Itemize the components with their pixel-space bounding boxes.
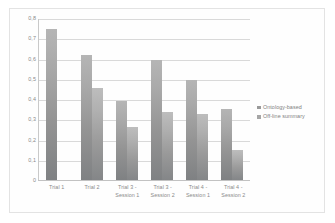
bar[interactable] [186,80,197,180]
bar-group [180,19,215,180]
bar[interactable] [151,60,162,180]
bar-group [39,19,74,180]
bar[interactable] [162,112,173,180]
plot-area [38,19,250,181]
y-axis-tick: 0,1 [14,158,36,163]
x-axis-tick: Trial 2 [74,184,109,200]
legend-swatch-icon [257,106,261,110]
x-axis-tick: Trial 4 -Session 1 [180,184,215,200]
chart-container: 0,8 0,7 0,6 0,5 0,4 0,3 0,2 0,1 0 Trial … [9,8,325,213]
bar[interactable] [46,29,57,180]
bar-group [145,19,180,180]
legend-item: Off-line summary [257,114,321,119]
y-axis-tick: 0,6 [14,57,36,62]
legend-item-label: Ontology-based [263,105,302,110]
bar-groups [39,19,250,180]
bar-group [74,19,109,180]
x-axis-line [38,180,250,181]
bar[interactable] [81,55,92,180]
bar[interactable] [221,109,232,180]
bar-group [109,19,144,180]
y-axis-tick: 0,5 [14,77,36,82]
x-axis-labels: Trial 1Trial 2Trial 3 -Session 1Trial 3 … [39,184,251,200]
bar[interactable] [127,127,138,180]
y-axis-tick: 0,8 [14,16,36,21]
x-axis-tick: Trial 4 -Session 2 [216,184,251,200]
legend-swatch-icon [257,115,261,119]
y-axis-tick: 0,2 [14,138,36,143]
y-axis-tick: 0 [14,178,36,183]
x-axis-tick: Trial 3 -Session 1 [110,184,145,200]
legend-item-label: Off-line summary [263,114,305,119]
y-axis-tick: 0,4 [14,97,36,102]
x-axis-tick: Trial 3 -Session 2 [145,184,180,200]
x-axis-tick: Trial 1 [39,184,74,200]
bar[interactable] [92,88,103,180]
bar-group [215,19,250,180]
legend-item: Ontology-based [257,105,321,110]
bar[interactable] [116,101,127,180]
y-axis-tick: 0,3 [14,117,36,122]
y-axis-tick: 0,7 [14,36,36,41]
bar[interactable] [197,114,208,180]
chart-legend: Ontology-based Off-line summary [257,105,321,124]
y-axis-labels: 0,8 0,7 0,6 0,5 0,4 0,3 0,2 0,1 0 [10,19,36,181]
bar[interactable] [232,150,243,180]
